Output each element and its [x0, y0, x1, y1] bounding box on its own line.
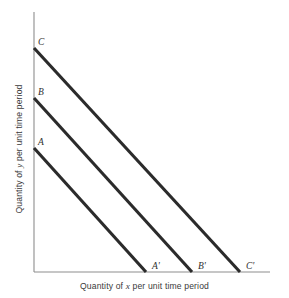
label-c-prime: C'	[246, 261, 255, 271]
plot-area: A B C A' B' C'	[0, 0, 289, 298]
label-a: A	[37, 137, 44, 147]
label-c: C	[38, 37, 45, 47]
budget-line-c	[34, 48, 240, 272]
y-axis-title: Quantity of y per unit time period	[9, 0, 29, 298]
y-axis-title-prefix: Quantity of	[14, 168, 24, 214]
x-axis-title: Quantity of x per unit time period	[0, 281, 289, 291]
budget-line-b	[34, 98, 192, 272]
y-axis-title-variable: y	[14, 164, 24, 168]
label-b: B	[38, 87, 44, 97]
label-b-prime: B'	[198, 261, 207, 271]
x-axis-title-suffix: per unit time period	[130, 281, 209, 291]
x-axis-title-prefix: Quantity of	[80, 281, 126, 291]
budget-lines-figure: A B C A' B' C' Quantity of x per unit ti…	[0, 0, 289, 298]
label-a-prime: A'	[151, 261, 161, 271]
budget-line-a	[34, 148, 146, 272]
y-axis-title-suffix: per unit time period	[14, 84, 24, 163]
